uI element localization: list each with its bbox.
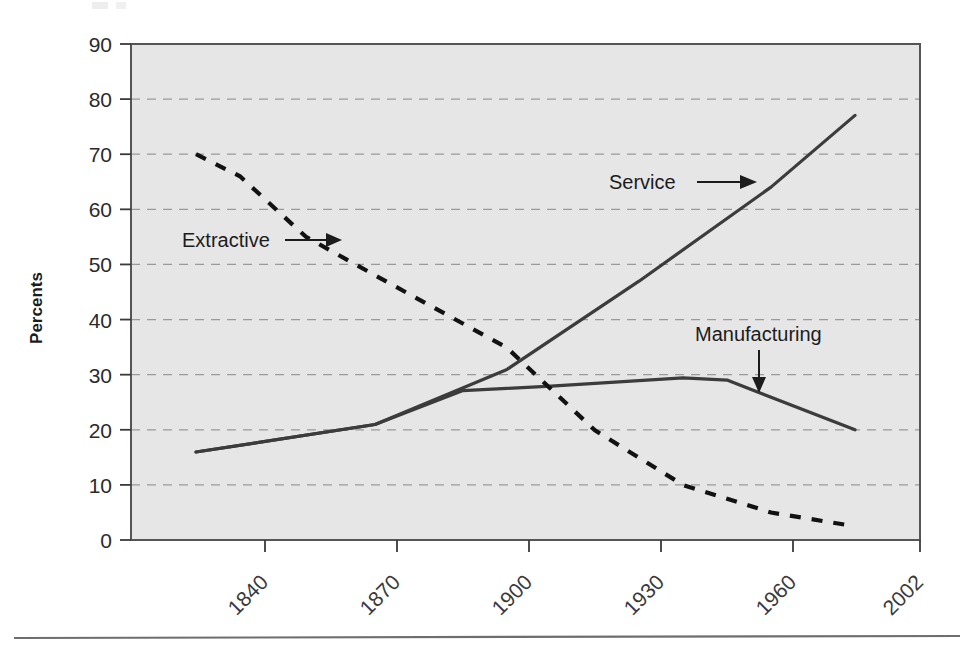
y-tick-label-30: 30	[89, 364, 112, 387]
y-tick-label-60: 60	[89, 198, 112, 221]
x-tick-label-1960: 1960	[751, 570, 800, 619]
x-tick-label-1930: 1930	[619, 570, 668, 619]
y-tick-label-90: 90	[89, 33, 112, 56]
y-axis-title: Percents	[27, 272, 46, 344]
x-axis-ticks	[265, 540, 920, 552]
y-tick-label-10: 10	[89, 474, 112, 497]
x-axis-tick-labels: 1840 1870 1900 1930 1960 2002	[223, 570, 927, 619]
x-tick-label-1900: 1900	[487, 570, 536, 619]
y-tick-label-70: 70	[89, 143, 112, 166]
x-tick-label-1840: 1840	[223, 570, 272, 619]
y-tick-label-20: 20	[89, 419, 112, 442]
annotation-label-manufacturing: Manufacturing	[695, 323, 822, 345]
annotation-label-service: Service	[609, 171, 676, 193]
y-axis-tick-labels: 0 10 20 30 40 50 60 70 80 90	[89, 33, 112, 552]
x-tick-label-2002: 2002	[878, 570, 927, 619]
plot-area-background	[131, 44, 920, 540]
y-axis-ticks	[120, 44, 131, 540]
page-footer-rule	[14, 636, 960, 638]
y-tick-label-40: 40	[89, 309, 112, 332]
y-tick-label-80: 80	[89, 88, 112, 111]
x-tick-label-1870: 1870	[355, 570, 404, 619]
scan-artifact	[92, 2, 126, 9]
chart-figure: 0 10 20 30 40 50 60 70 80 90 Percents 18…	[0, 0, 974, 656]
annotation-label-extractive: Extractive	[182, 229, 270, 251]
y-tick-label-0: 0	[100, 529, 112, 552]
y-tick-label-50: 50	[89, 253, 112, 276]
line-chart: 0 10 20 30 40 50 60 70 80 90 Percents 18…	[0, 0, 974, 656]
